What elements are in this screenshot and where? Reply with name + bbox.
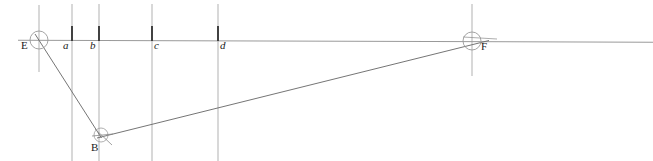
measure-label-d: d (220, 40, 226, 51)
point-marker-group (30, 31, 497, 145)
diagram-canvas: E F B a b c d (0, 0, 653, 161)
point-label-F: F (481, 41, 487, 52)
geometry-drawing (0, 0, 653, 161)
measure-label-a: a (63, 40, 69, 51)
point-label-E: E (21, 40, 28, 51)
horizon-line (18, 40, 653, 42)
ray-B-to-F (97, 41, 489, 139)
point-label-B: B (91, 142, 98, 153)
measure-label-b: b (90, 40, 96, 51)
ray-group (35, 34, 489, 138)
measure-label-c: c (154, 40, 159, 51)
